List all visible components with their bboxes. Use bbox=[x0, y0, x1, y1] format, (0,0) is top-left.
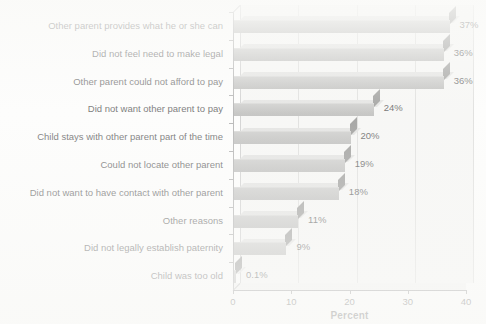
y-axis-tick bbox=[229, 40, 233, 41]
bar-value-label: 18% bbox=[349, 186, 368, 197]
category-label: Could not locate other parent bbox=[0, 160, 223, 170]
bar-front-face bbox=[234, 187, 339, 200]
bar-front-face bbox=[234, 20, 450, 33]
y-axis-tick bbox=[229, 123, 233, 124]
bar-front-face bbox=[234, 131, 351, 144]
y-axis-tick bbox=[229, 68, 233, 69]
y-axis-tick bbox=[229, 179, 233, 180]
bar-value-label: 11% bbox=[308, 214, 326, 225]
x-axis-tick-label: 0 bbox=[230, 296, 235, 307]
x-axis-tick bbox=[408, 290, 409, 294]
category-label: Did not legally establish paternity bbox=[0, 243, 223, 253]
x-axis-tick-label: 40 bbox=[461, 296, 472, 307]
y-axis-tick bbox=[229, 234, 233, 235]
y-axis-tick bbox=[229, 151, 233, 152]
category-label: Did not feel need to make legal bbox=[0, 49, 223, 59]
x-axis-title: Percent bbox=[233, 310, 466, 321]
category-label: Other parent could not afford to pay bbox=[0, 77, 223, 87]
bar-value-label: 20% bbox=[361, 130, 380, 141]
bar-value-label: 19% bbox=[355, 158, 374, 169]
bar-front-face bbox=[234, 159, 345, 172]
bar-front-face bbox=[234, 76, 444, 89]
plot-floor bbox=[233, 283, 466, 290]
bar-front-face bbox=[234, 48, 444, 61]
y-axis-tick bbox=[229, 95, 233, 96]
category-label: Child stays with other parent part of th… bbox=[0, 132, 223, 142]
bar-value-label: 0.1% bbox=[246, 269, 268, 280]
bar-value-label: 9% bbox=[296, 241, 310, 252]
category-axis-labels: Other parent provides what he or she can… bbox=[0, 0, 229, 324]
bar-front-face bbox=[234, 103, 374, 116]
category-label: Did not want other parent to pay bbox=[0, 104, 223, 114]
bar-value-label: 24% bbox=[384, 102, 403, 113]
category-label: Did not want to have contact with other … bbox=[0, 188, 223, 198]
x-axis-tick bbox=[233, 290, 234, 294]
category-label: Other parent provides what he or she can bbox=[0, 21, 223, 31]
gridline bbox=[473, 5, 474, 283]
x-axis-tick bbox=[466, 290, 467, 294]
category-label: Child was too old bbox=[0, 271, 223, 281]
plot-area: 37%36%36%24%20%19%18%11%9%0.1% 010203040… bbox=[233, 5, 473, 290]
bar-chart-figure: Other parent provides what he or she can… bbox=[0, 0, 486, 324]
bar-value-label: 36% bbox=[454, 47, 473, 58]
x-axis-tick-label: 30 bbox=[402, 296, 413, 307]
y-axis-tick bbox=[229, 262, 233, 263]
bar-front-face bbox=[234, 242, 286, 255]
bar-front-face bbox=[234, 270, 236, 283]
x-axis-tick bbox=[350, 290, 351, 294]
y-axis-tick bbox=[229, 207, 233, 208]
x-axis-tick-label: 10 bbox=[286, 296, 297, 307]
x-axis-tick bbox=[291, 290, 292, 294]
category-label: Other reasons bbox=[0, 216, 223, 226]
bar-front-face bbox=[234, 215, 298, 228]
bar-value-label: 36% bbox=[454, 75, 473, 86]
bar-value-label: 37% bbox=[460, 19, 479, 30]
x-axis-tick-label: 20 bbox=[344, 296, 355, 307]
